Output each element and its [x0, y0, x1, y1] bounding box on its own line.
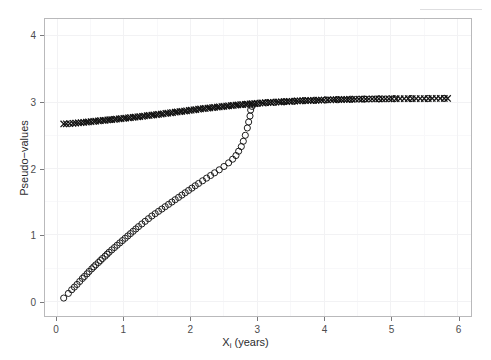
x-tick-mark: [190, 317, 191, 321]
x-tick-label: 4: [322, 324, 328, 335]
x-tick-mark: [123, 317, 124, 321]
scatter-plot-figure: 012345601234 Xi (years) Pseudo−values: [0, 0, 491, 360]
x-tick-label: 0: [53, 324, 59, 335]
y-tick-label: 4: [12, 29, 36, 40]
x-tick-mark: [324, 317, 325, 321]
y-tick-label: 0: [12, 297, 36, 308]
x-tick-label: 5: [389, 324, 395, 335]
y-tick-mark: [40, 235, 44, 236]
x-tick-label: 3: [255, 324, 261, 335]
x-tick-label: 2: [187, 324, 193, 335]
x-tick-label: 6: [456, 324, 462, 335]
x-tick-label: 1: [120, 324, 126, 335]
x-tick-mark: [56, 317, 57, 321]
y-tick-mark: [40, 302, 44, 303]
y-axis-label: Pseudo−values: [18, 78, 30, 238]
y-tick-mark: [40, 102, 44, 103]
x-axis-label-tail: (years): [231, 336, 268, 348]
data-markers: [45, 19, 471, 316]
x-tick-mark: [257, 317, 258, 321]
plot-panel: [44, 18, 472, 317]
y-tick-mark: [40, 35, 44, 36]
x-tick-mark: [391, 317, 392, 321]
x-tick-mark: [459, 317, 460, 321]
top-edge-artifact: [420, 9, 482, 10]
plot-area: [45, 19, 471, 316]
series-upper-curve-x-markers: [61, 95, 451, 127]
y-tick-mark: [40, 169, 44, 170]
x-axis-label: Xi (years): [0, 336, 491, 348]
series-lower-curve-o-markers: [61, 95, 448, 301]
x-axis-label-base: X: [222, 336, 229, 348]
